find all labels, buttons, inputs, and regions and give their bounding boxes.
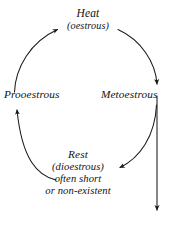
oestrous-cycle-diagram: Heat (oestrous) Metoestrous Rest (dioest… xyxy=(0,0,176,228)
arrow-heat-to-metoestrous xyxy=(118,30,157,85)
stage-label-heat: Heat (oestrous) xyxy=(0,7,176,32)
stage-label-rest-line-3: often short xyxy=(18,173,138,185)
stage-label-rest-line-2: (dioestrous) xyxy=(18,161,138,173)
stage-label-rest-line-4: or non-existent xyxy=(18,185,138,197)
stage-label-heat-line-2: (oestrous) xyxy=(0,20,176,32)
stage-label-metoestrous-line-1: Metoestrous xyxy=(101,88,176,101)
stage-label-rest-line-1: Rest xyxy=(18,148,138,161)
arrow-prooestrous-to-heat xyxy=(15,30,58,93)
stage-label-rest: Rest (dioestrous) often short or non-exi… xyxy=(18,148,138,197)
stage-label-heat-line-1: Heat xyxy=(0,7,176,20)
stage-label-prooestrous-line-1: Prooestrous xyxy=(4,88,78,101)
stage-label-prooestrous: Prooestrous xyxy=(4,88,78,101)
stage-label-metoestrous: Metoestrous xyxy=(101,88,176,101)
